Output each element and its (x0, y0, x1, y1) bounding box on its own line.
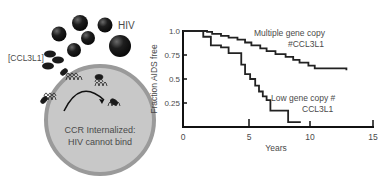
ccl3l1-label: [CCL3L1] (8, 53, 44, 63)
hiv-virion-icon (98, 18, 113, 33)
hiv-virion-icon (109, 35, 131, 57)
hiv-virion-icon (81, 31, 95, 45)
chemokine-icon (44, 51, 56, 58)
hiv-label: HIV (118, 20, 135, 31)
y-tick-label: 1.0 (169, 27, 181, 36)
x-ticks (249, 119, 373, 127)
y-tick-label: 0.5 (169, 75, 181, 84)
cell-caption-line2: HIV cannot bind (68, 137, 132, 147)
x-tick-label: 15 (368, 132, 378, 142)
y-tick-label: 0.75 (164, 51, 180, 60)
x-axis-label: Years (265, 143, 286, 153)
ccl3l1-chemokines (42, 51, 64, 70)
hiv-virion-icon (67, 43, 81, 57)
series-label-low-line1: Low gene copy # (271, 93, 336, 103)
survival-chart: 1.0 0.75 0.5 0.25 0 5 10 15 Years Fracti… (149, 27, 378, 153)
cell-caption-line1: CCR Internalized: (64, 125, 135, 135)
x-tick-label: 10 (305, 132, 315, 142)
y-tick-label: 0.25 (164, 99, 180, 108)
x-tick-label: 5 (247, 132, 252, 142)
series-label-low-line2: CCL3L1 (302, 104, 333, 114)
cell-illustration: HIV [CCL3L1] (8, 15, 154, 174)
hiv-virion-icon (72, 15, 88, 31)
figure: HIV [CCL3L1] (0, 0, 390, 176)
series-label-multiple-line2: #CCL3L1 (288, 39, 324, 49)
hiv-virion-icon (52, 27, 67, 42)
series-label-multiple-line1: Multiple gene copy (254, 28, 326, 38)
cell-body (46, 66, 154, 174)
chemokine-icon (42, 63, 54, 70)
curve-low-copy (183, 31, 301, 122)
chemokine-icon (52, 57, 64, 64)
x-tick-label: 0 (181, 132, 186, 142)
y-axis-label: Fraction AIDS free (149, 44, 159, 114)
